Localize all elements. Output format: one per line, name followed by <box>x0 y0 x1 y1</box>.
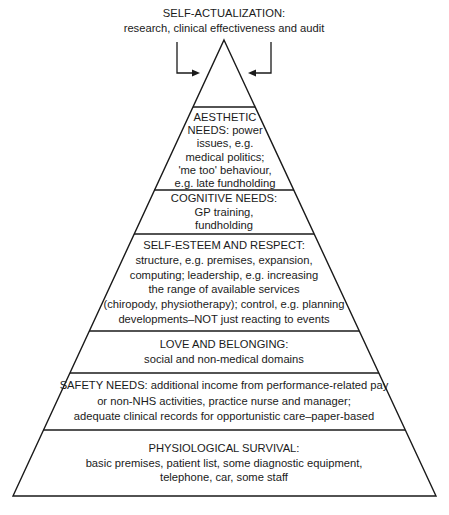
level-text: NEEDS: power <box>175 124 276 137</box>
level-title: SELF-ESTEEM AND RESPECT: <box>103 238 344 253</box>
level-text: structure, e.g. premises, expansion, <box>103 253 344 268</box>
arrow-right-icon <box>177 42 200 77</box>
level-title: AESTHETIC <box>175 111 276 124</box>
level-text: developments–NOT just reacting to events <box>103 312 344 327</box>
self-actualization-label: SELF-ACTUALIZATION: research, clinical e… <box>124 6 325 36</box>
level-text: fundholding <box>171 219 277 233</box>
level-text: research, clinical effectiveness and aud… <box>124 21 325 36</box>
level-text: medical politics; <box>175 151 276 164</box>
level-title: SAFETY NEEDS: additional income from per… <box>60 378 389 394</box>
level-text: adequate clinical records for opportunis… <box>60 409 389 425</box>
level-self-esteem-and-respect: SELF-ESTEEM AND RESPECT: structure, e.g.… <box>103 238 344 327</box>
level-text: or non-NHS activities, practice nurse an… <box>60 394 389 410</box>
level-safety-needs: SAFETY NEEDS: additional income from per… <box>60 378 389 425</box>
level-title: PHYSIOLOGICAL SURVIVAL: <box>86 441 363 456</box>
level-text: GP training, <box>171 206 277 220</box>
level-text: basic premises, patient list, some diagn… <box>86 456 363 471</box>
level-title: LOVE AND BELONGING: <box>144 337 304 352</box>
level-text: telephone, car, some staff <box>86 470 363 485</box>
level-text: issues, e.g. <box>175 137 276 150</box>
level-text: (chiropody, physiotherapy); control, e.g… <box>103 297 344 312</box>
level-cognitive-needs: COGNITIVE NEEDS: GP training, fundholdin… <box>171 192 277 233</box>
level-text: 'me too' behaviour, <box>175 164 276 177</box>
level-physiological-survival: PHYSIOLOGICAL SURVIVAL: basic premises, … <box>86 441 363 485</box>
level-title: COGNITIVE NEEDS: <box>171 192 277 206</box>
level-title: SELF-ACTUALIZATION: <box>124 6 325 21</box>
level-text: the range of available services <box>103 282 344 297</box>
level-text: e.g. late fundholding <box>175 177 276 190</box>
level-love-and-belonging: LOVE AND BELONGING: social and non-medic… <box>144 337 304 366</box>
level-aesthetic-needs: AESTHETIC NEEDS: power issues, e.g. medi… <box>175 111 276 190</box>
level-text: social and non-medical domains <box>144 352 304 367</box>
level-text: computing; leadership, e.g. increasing <box>103 268 344 283</box>
arrow-left-icon <box>248 42 271 77</box>
